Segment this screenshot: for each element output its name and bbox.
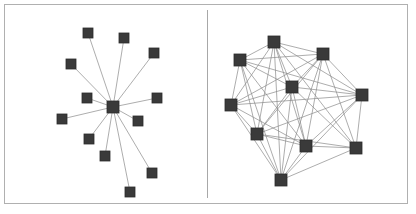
figure-root — [0, 0, 416, 214]
mesh-topology-panel[interactable] — [208, 5, 407, 203]
star-topology-panel[interactable] — [5, 5, 207, 203]
